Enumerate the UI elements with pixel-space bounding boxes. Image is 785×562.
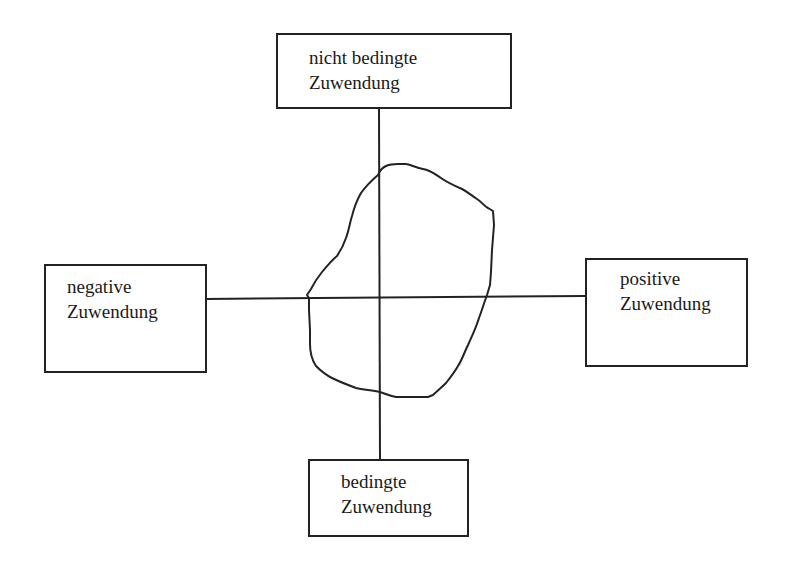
box-right-label-line2: Zuwendung	[620, 291, 746, 316]
box-right-label-line1: positive	[620, 266, 746, 291]
freehand-outline-shape	[307, 164, 494, 397]
vertical-axis-line	[379, 108, 380, 459]
box-top-label-line1: nicht bedingte	[309, 45, 510, 70]
box-negative-zuwendung: negative Zuwendung	[44, 264, 207, 373]
box-nicht-bedingte-zuwendung: nicht bedingte Zuwendung	[276, 33, 512, 109]
quadrant-diagram: nicht bedingte Zuwendung negative Zuwend…	[0, 0, 785, 562]
box-left-label-line2: Zuwendung	[67, 299, 205, 324]
box-left-label-line1: negative	[67, 274, 205, 299]
box-bottom-label-line1: bedingte	[341, 469, 467, 494]
box-positive-zuwendung: positive Zuwendung	[585, 258, 748, 367]
box-bedingte-zuwendung: bedingte Zuwendung	[308, 459, 469, 537]
box-top-label-line2: Zuwendung	[309, 70, 510, 95]
box-bottom-label-line2: Zuwendung	[341, 494, 467, 519]
horizontal-axis-line	[206, 296, 585, 299]
